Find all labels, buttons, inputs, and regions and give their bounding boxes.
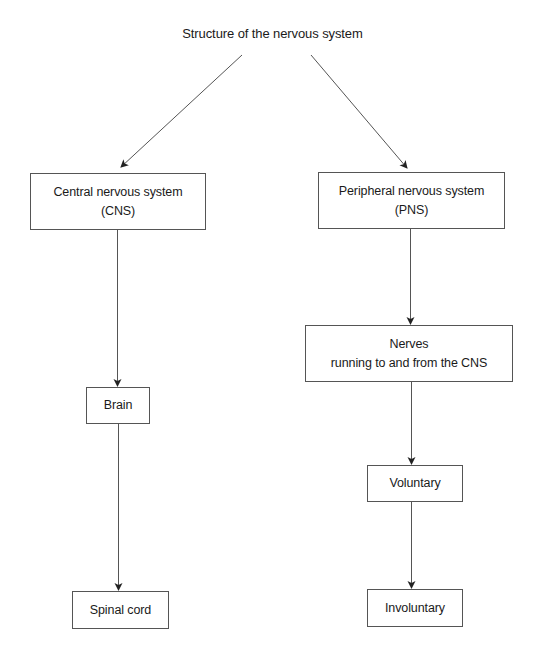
node-nerves-line1: Nerves: [390, 335, 429, 354]
node-nerves: Nerves running to and from the CNS: [305, 325, 513, 382]
node-spinal-cord-label: Spinal cord: [90, 601, 151, 620]
node-pns-line2: (PNS): [395, 201, 429, 220]
node-spinal-cord: Spinal cord: [72, 591, 169, 629]
node-nerves-line2: running to and from the CNS: [331, 354, 487, 373]
node-pns-line1: Peripheral nervous system: [339, 182, 484, 201]
node-brain: Brain: [86, 387, 150, 424]
node-brain-label: Brain: [104, 396, 133, 415]
node-involuntary-label: Involuntary: [385, 599, 445, 618]
node-voluntary: Voluntary: [367, 465, 463, 502]
node-involuntary: Involuntary: [367, 589, 463, 627]
arrow-title-to-pns: [311, 55, 407, 168]
node-cns: Central nervous system (CNS): [30, 173, 206, 230]
node-cns-line2: (CNS): [101, 202, 135, 221]
node-pns: Peripheral nervous system (PNS): [318, 172, 505, 229]
node-voluntary-label: Voluntary: [389, 474, 440, 493]
nervous-system-diagram: Structure of the nervous system Central …: [0, 0, 545, 650]
arrow-title-to-cns: [121, 55, 242, 167]
node-cns-line1: Central nervous system: [53, 183, 182, 202]
diagram-title: Structure of the nervous system: [0, 25, 545, 43]
